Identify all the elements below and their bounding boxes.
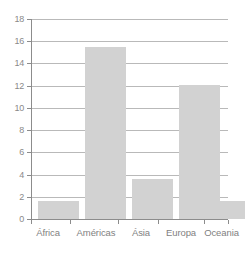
x-tick-3 xyxy=(158,220,159,224)
x-tick-5 xyxy=(228,220,229,224)
y-tick-label-10: 10 xyxy=(2,104,24,113)
x-tick-2 xyxy=(118,220,119,224)
y-tick-label-14: 14 xyxy=(2,59,24,68)
x-tick-4 xyxy=(204,220,205,224)
y-tick-label-0: 0 xyxy=(2,215,24,224)
y-tick-label-4: 4 xyxy=(2,171,24,180)
x-tick-0 xyxy=(31,220,32,224)
x-label-asia: Ásia xyxy=(123,227,159,238)
x-tick-1 xyxy=(70,220,71,224)
y-axis-labels: 18 16 14 12 10 8 6 4 2 0 xyxy=(0,0,245,253)
y-tick-label-8: 8 xyxy=(2,126,24,135)
y-tick-label-12: 12 xyxy=(2,82,24,91)
x-label-americas: Américas xyxy=(68,227,124,238)
y-tick-label-16: 16 xyxy=(2,37,24,46)
x-label-africa: África xyxy=(25,227,71,238)
bar-chart: 18 16 14 12 10 8 6 4 2 0 África Américas… xyxy=(0,0,245,253)
y-tick-label-18: 18 xyxy=(2,15,24,24)
x-label-oceania: Oceania xyxy=(198,227,245,238)
y-tick-label-2: 2 xyxy=(2,193,24,202)
y-tick-label-6: 6 xyxy=(2,148,24,157)
